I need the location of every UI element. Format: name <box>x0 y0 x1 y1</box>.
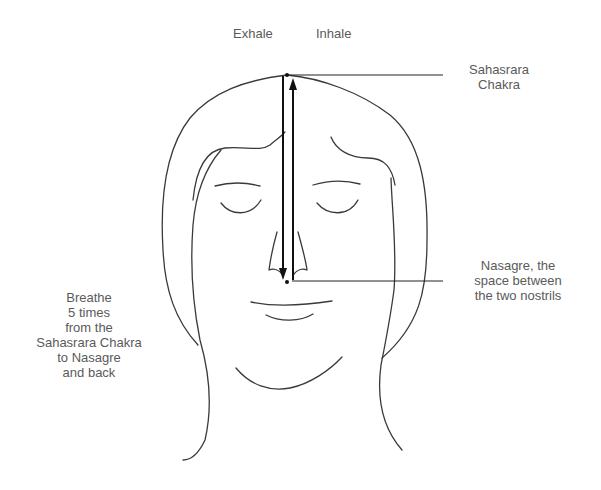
eyebrow-right <box>313 181 360 185</box>
mouth-lower-lip <box>266 314 313 320</box>
sahasrara-point <box>285 73 289 77</box>
face-contour-left <box>183 150 221 460</box>
inhale-arrow-head-icon <box>289 78 297 90</box>
instruction-label: Breathe 5 times from the Sahasrara Chakr… <box>24 290 154 380</box>
nasagre-point <box>285 280 289 284</box>
exhale-arrow-head-icon <box>279 268 287 280</box>
eyebrow-left <box>215 183 260 186</box>
face-contour-right <box>379 178 402 450</box>
nose-right <box>294 232 307 274</box>
mouth-upper-lip <box>251 301 332 305</box>
hair-fringe-left <box>193 132 285 200</box>
eye-left-closed <box>221 200 261 213</box>
chin-line <box>236 357 342 389</box>
nasagre-label: Nasagre, the space between the two nostr… <box>463 258 573 303</box>
inhale-label: Inhale <box>316 26 351 41</box>
exhale-label: Exhale <box>233 26 273 41</box>
eye-right-closed <box>317 200 358 213</box>
sahasrara-chakra-label: Sahasrara Chakra <box>458 62 540 92</box>
hair-fringe-right <box>331 137 395 185</box>
nose-left <box>269 232 282 274</box>
head-outline <box>162 75 427 358</box>
